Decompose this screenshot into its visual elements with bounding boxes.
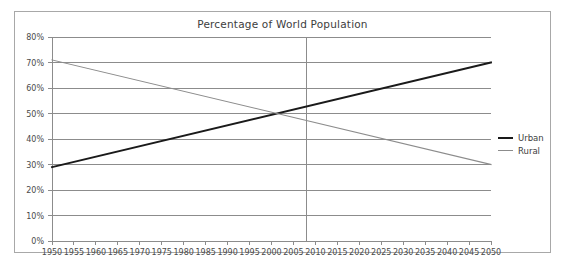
y-tick-label: 20% [10, 186, 44, 195]
x-tick-label: 1990 [217, 248, 237, 257]
x-tick-label: 2040 [437, 248, 457, 257]
y-tick-label: 60% [10, 84, 44, 93]
x-tick-label: 1980 [174, 248, 194, 257]
chart-frame: Percentage of World Population 0%10%20%3… [14, 11, 551, 253]
x-tick-label: 1975 [152, 248, 172, 257]
x-tick-label: 1965 [108, 248, 128, 257]
series-line-rural [52, 60, 491, 165]
y-tick-label: 0% [10, 237, 44, 246]
legend-label: Urban [518, 133, 544, 143]
chart-legend: UrbanRural [498, 131, 544, 157]
x-tick-label: 1960 [86, 248, 106, 257]
y-tick-label: 50% [10, 109, 44, 118]
y-tick-label: 80% [10, 33, 44, 42]
legend-item-rural[interactable]: Rural [498, 144, 544, 157]
x-tick-label: 2015 [327, 248, 347, 257]
x-tick-label: 2005 [283, 248, 303, 257]
legend-item-urban[interactable]: Urban [498, 131, 544, 144]
y-tick-label: 10% [10, 211, 44, 220]
x-tick-label: 2020 [349, 248, 369, 257]
legend-swatch-urban [498, 137, 513, 139]
x-tick-label: 2035 [415, 248, 435, 257]
series-line-urban [52, 63, 491, 168]
x-tick-label: 2025 [371, 248, 391, 257]
plot-area [15, 12, 552, 254]
x-tick-label: 2000 [261, 248, 281, 257]
x-tick-label: 2010 [305, 248, 325, 257]
x-tick-label: 2050 [481, 248, 501, 257]
x-tick-label: 1995 [239, 248, 259, 257]
x-tick-label: 1985 [195, 248, 215, 257]
x-tick-label: 2045 [459, 248, 479, 257]
x-tick-label: 1970 [130, 248, 150, 257]
legend-swatch-rural [498, 150, 513, 151]
x-tick-label: 1955 [64, 248, 84, 257]
y-tick-label: 70% [10, 58, 44, 67]
y-tick-label: 30% [10, 160, 44, 169]
legend-label: Rural [518, 146, 540, 156]
x-tick-label: 1950 [42, 248, 62, 257]
x-tick-label: 2030 [393, 248, 413, 257]
y-tick-label: 40% [10, 135, 44, 144]
